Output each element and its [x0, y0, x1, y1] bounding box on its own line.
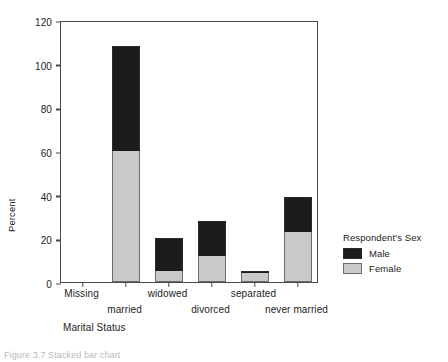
- legend: Respondent's Sex MaleFemale: [343, 232, 443, 278]
- stacked-bar-chart-figure: Percent 020406080100120 Missingmarriedwi…: [0, 0, 448, 362]
- x-axis-category-label: separated: [231, 288, 276, 299]
- legend-entry[interactable]: Female: [343, 263, 443, 274]
- x-axis-category-label: never married: [265, 304, 328, 315]
- x-axis-category-label: divorced: [191, 304, 230, 315]
- x-axis-category-label: Missing: [64, 288, 99, 299]
- legend-entry[interactable]: Male: [343, 248, 443, 259]
- legend-entries: MaleFemale: [343, 248, 443, 274]
- x-axis-category-label: married: [107, 304, 142, 315]
- x-axis-category-label: widowed: [148, 288, 188, 299]
- legend-swatch-male: [343, 248, 362, 259]
- x-axis-title: Marital Status: [63, 322, 126, 333]
- legend-swatch-female: [343, 263, 362, 274]
- legend-label: Female: [369, 263, 401, 274]
- figure-caption: Figure 3.7 Stacked bar chart: [4, 350, 120, 361]
- x-axis-category-labels: Missingmarriedwidoweddivorcedseparatedne…: [0, 0, 448, 362]
- legend-label: Male: [369, 248, 390, 259]
- legend-title: Respondent's Sex: [343, 232, 443, 243]
